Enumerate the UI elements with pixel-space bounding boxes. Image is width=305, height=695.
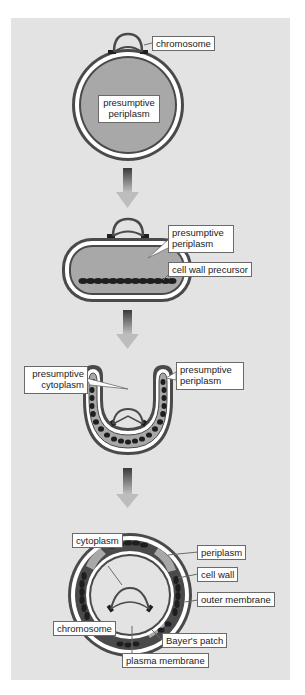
down-arrow-icon	[116, 468, 139, 508]
chromosome-icon	[107, 219, 149, 238]
label-presumptive-periplasm-stage1: presumptive periplasm	[98, 95, 160, 123]
label-line: presumptive	[102, 97, 156, 108]
label-cell-wall-precursor: cell wall precursor	[168, 262, 252, 277]
label-presumptive-periplasm-stage3: presumptive periplasm	[176, 362, 244, 390]
label-line: cytoplasm	[28, 379, 84, 390]
label-periplasm: periplasm	[197, 545, 246, 560]
stage-3-cell	[83, 365, 176, 455]
label-line: periplasm	[102, 108, 156, 119]
chromosome-icon	[110, 409, 147, 427]
label-cell-wall: cell wall	[197, 567, 238, 582]
label-cytoplasm: cytoplasm	[72, 533, 123, 548]
label-line: presumptive	[172, 227, 230, 238]
label-chromosome-stage1: chromosome	[152, 36, 215, 51]
label-chromosome-stage4: chromosome	[53, 621, 116, 636]
down-arrow-icon	[116, 310, 139, 349]
label-line: presumptive	[180, 364, 240, 375]
down-arrow-icon	[116, 168, 139, 208]
label-line: periplasm	[180, 375, 240, 386]
label-outer-membrane: outer membrane	[197, 592, 275, 607]
label-presumptive-periplasm-stage2: presumptive periplasm	[168, 225, 234, 253]
label-line: presumptive	[28, 368, 84, 379]
label-line: periplasm	[172, 238, 230, 249]
label-bayers-patch: Bayer's patch	[162, 633, 227, 648]
label-presumptive-cytoplasm: presumptive cytoplasm	[24, 366, 88, 394]
label-plasma-membrane: plasma membrane	[122, 653, 209, 668]
